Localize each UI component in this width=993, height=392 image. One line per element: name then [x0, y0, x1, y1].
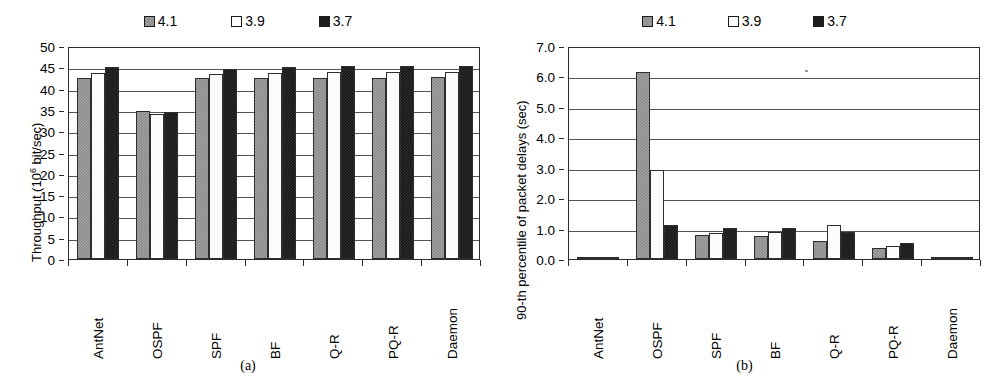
x-tick-mark: [686, 260, 687, 266]
legend-entry-3-7: 3.7: [813, 14, 846, 28]
legend-entry-4-1: 4.1: [144, 14, 177, 28]
bar-group: [628, 48, 687, 259]
y-axis-tick-labels-b: 0.01.02.03.04.05.06.07.0: [496, 47, 564, 260]
bar-daemon-3-7: [959, 257, 973, 259]
y-tick-label: 0.0: [536, 253, 555, 268]
bar-q-r-3-9: [827, 225, 841, 259]
x-category-label-ospf: OSPF: [650, 273, 666, 359]
figure-panels-row: 4.1 3.9 3.7 Throughput (106 bit/sec) 051…: [0, 0, 993, 392]
y-tick-mark: [559, 260, 564, 261]
y-tick-label: 5.0: [536, 100, 555, 115]
x-tick-mark: [803, 260, 804, 266]
bar-ospf-4-1: [636, 72, 650, 259]
y-tick-mark: [59, 260, 64, 261]
y-tick-mark: [59, 196, 64, 197]
legend-entry-4-1: 4.1: [642, 14, 675, 28]
y-tick-mark: [59, 132, 64, 133]
y-tick-mark: [559, 138, 564, 139]
bar-q-r-3-7: [341, 66, 355, 259]
bar-group: [922, 48, 980, 259]
y-tick-label: 2.0: [536, 192, 555, 207]
bar-pq-r-3-7: [400, 66, 414, 259]
scan-speck: [805, 70, 808, 72]
x-tick-mark: [303, 260, 304, 266]
bar-q-r-4-1: [313, 78, 327, 259]
bar-daemon-3-9: [445, 72, 459, 259]
bar-antnet-3-9: [591, 257, 605, 259]
x-category-label-pq-r: PQ-R: [886, 273, 902, 359]
bar-pq-r-4-1: [372, 78, 386, 259]
y-tick-label: 7.0: [536, 40, 555, 55]
bar-pq-r-4-1: [872, 248, 886, 259]
bar-group: [246, 48, 305, 259]
plot-frame-b: [568, 47, 980, 260]
y-tick-mark: [59, 68, 64, 69]
x-tick-mark: [921, 260, 922, 266]
bar-spf-3-7: [723, 228, 737, 259]
chart-panel-b: 4.1 3.9 3.7 90-th percentile of packet d…: [496, 0, 993, 392]
y-tick-label: 1.0: [536, 222, 555, 237]
bars-layer-a: [69, 48, 479, 259]
y-tick-mark: [59, 47, 64, 48]
x-tick-mark: [480, 260, 481, 266]
bar-daemon-4-1: [431, 77, 445, 259]
y-tick-label: 0: [47, 253, 55, 268]
bar-bf-3-9: [768, 232, 782, 259]
x-category-label-spf: SPF: [209, 273, 225, 359]
bar-daemon-3-7: [459, 66, 473, 259]
x-tick-mark: [862, 260, 863, 266]
x-tick-mark: [627, 260, 628, 266]
bar-bf-4-1: [254, 78, 268, 259]
y-tick-mark: [59, 239, 64, 240]
bar-group: [304, 48, 363, 259]
x-tick-mark: [362, 260, 363, 266]
bar-group: [746, 48, 805, 259]
x-category-label-antnet: AntNet: [91, 273, 107, 359]
y-tick-label: 50: [40, 40, 55, 55]
y-tick-label: 5: [47, 231, 55, 246]
bar-bf-3-9: [268, 73, 282, 259]
legend-label-3-7: 3.7: [333, 14, 352, 28]
bar-antnet-3-9: [91, 73, 105, 259]
y-tick-mark: [59, 111, 64, 112]
bar-ospf-3-9: [150, 114, 164, 259]
bar-group: [422, 48, 480, 259]
bar-q-r-3-9: [327, 72, 341, 259]
y-tick-label: 4.0: [536, 131, 555, 146]
y-tick-mark: [559, 77, 564, 78]
bar-group: [687, 48, 746, 259]
bar-group: [187, 48, 246, 259]
x-category-label-bf: BF: [768, 273, 784, 359]
bar-antnet-4-1: [77, 78, 91, 259]
bar-bf-3-7: [782, 228, 796, 259]
bar-antnet-3-7: [605, 257, 619, 259]
x-category-label-antnet: AntNet: [591, 273, 607, 359]
bar-ospf-3-7: [164, 112, 178, 259]
bar-group: [128, 48, 187, 259]
y-tick-mark: [559, 199, 564, 200]
legend-swatch-icon-3-7: [813, 16, 824, 27]
bar-group: [363, 48, 422, 259]
y-tick-label: 40: [40, 82, 55, 97]
x-tick-mark: [421, 260, 422, 266]
y-tick-mark: [559, 230, 564, 231]
bar-daemon-4-1: [931, 257, 945, 259]
legend-swatch-icon-3-9: [728, 16, 739, 27]
legend-panel-a: 4.1 3.9 3.7: [0, 14, 496, 28]
x-category-label-bf: BF: [268, 273, 284, 359]
legend-label-3-9: 3.9: [742, 14, 761, 28]
x-tick-mark: [980, 260, 981, 266]
x-tick-mark: [568, 260, 569, 266]
bar-group: [863, 48, 922, 259]
y-tick-label: 3.0: [536, 161, 555, 176]
bar-spf-3-7: [223, 69, 237, 259]
y-tick-label: 30: [40, 125, 55, 140]
bar-group: [569, 48, 628, 259]
y-tick-mark: [559, 108, 564, 109]
y-tick-mark: [559, 169, 564, 170]
plot-area-b: [568, 47, 980, 260]
chart-panel-a: 4.1 3.9 3.7 Throughput (106 bit/sec) 051…: [0, 0, 496, 392]
x-tick-mark: [186, 260, 187, 266]
y-tick-label: 20: [40, 167, 55, 182]
y-tick-label: 25: [40, 146, 55, 161]
